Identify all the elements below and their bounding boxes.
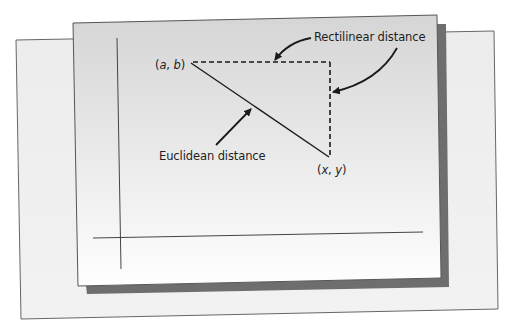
paren-close: )	[181, 58, 185, 72]
euclidean-distance-label: Euclidean distance	[159, 149, 266, 163]
point-label-ab: (a, b)	[155, 58, 185, 72]
point-label-xy: (x, y)	[317, 163, 346, 177]
diagram-canvas: (a, b) (x, y) Rectilinear distance Eucli…	[0, 0, 513, 331]
rectilinear-distance-label: Rectilinear distance	[314, 30, 426, 44]
diagram-svg	[0, 0, 513, 331]
var-b: b	[173, 58, 180, 72]
paren-close: )	[342, 163, 346, 177]
var-y: y	[335, 163, 342, 177]
